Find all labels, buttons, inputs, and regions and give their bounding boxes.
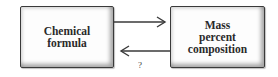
chemical-formula-box: Chemical formula <box>20 6 114 68</box>
forward-arrow <box>114 17 165 27</box>
reverse-arrow-label: ? <box>138 60 142 70</box>
reverse-arrow <box>121 46 170 56</box>
reverse-arrow-head-icon <box>121 46 129 56</box>
mass-percent-composition-label: Mass percent composition <box>188 19 247 55</box>
mass-percent-composition-box: Mass percent composition <box>170 6 265 68</box>
forward-arrow-head-icon <box>157 17 165 27</box>
chemical-formula-label: Chemical formula <box>44 25 91 49</box>
